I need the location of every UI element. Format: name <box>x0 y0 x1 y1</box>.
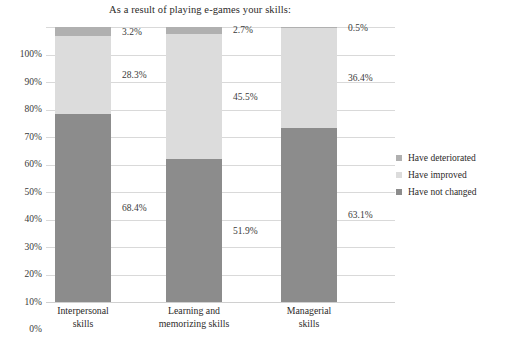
stacked-bar-chart: As a result of playing e-games your skil… <box>0 0 515 341</box>
x-tick-label-line: skills <box>28 318 138 331</box>
plot-area: 68.4%28.3%3.2%51.9%45.5%2.7%63.1%36.4%0.… <box>46 27 395 302</box>
bar-segment[interactable] <box>281 27 337 28</box>
data-label: 51.9% <box>233 226 258 236</box>
legend-label: Have improved <box>408 170 467 180</box>
x-tick-label-line: Learning and <box>139 305 249 318</box>
y-tick-label: 60% <box>0 159 42 169</box>
data-label: 28.3% <box>122 70 147 80</box>
bar-segment[interactable] <box>281 128 337 302</box>
x-axis: InterpersonalskillsLearning andmemorizin… <box>46 305 395 339</box>
x-tick-label-line: Managerial <box>254 305 364 318</box>
y-tick-label: 20% <box>0 269 42 279</box>
data-label: 2.7% <box>233 25 253 35</box>
legend-swatch-icon <box>396 155 402 161</box>
data-label: 68.4% <box>122 203 147 213</box>
x-tick-label: Managerialskills <box>254 305 364 330</box>
x-tick-label: Interpersonalskills <box>28 305 138 330</box>
legend-item[interactable]: Have deteriorated <box>396 150 512 165</box>
bar-group[interactable] <box>281 27 337 302</box>
y-tick-label: 40% <box>0 214 42 224</box>
bar-segment[interactable] <box>55 36 111 114</box>
data-label: 63.1% <box>348 210 373 220</box>
y-axis: 0%10%20%30%40%50%60%70%80%90%100% <box>0 27 42 302</box>
x-tick-label-line: Interpersonal <box>28 305 138 318</box>
y-tick-label: 90% <box>0 77 42 87</box>
legend-item[interactable]: Have not changed <box>396 184 512 199</box>
y-tick-label: 30% <box>0 242 42 252</box>
bar-segment[interactable] <box>166 27 222 34</box>
bar-segment[interactable] <box>55 27 111 36</box>
y-tick-label: 70% <box>0 132 42 142</box>
chart-legend: Have deterioratedHave improvedHave not c… <box>396 150 512 201</box>
data-label: 0.5% <box>348 23 368 33</box>
bar-segment[interactable] <box>166 159 222 302</box>
chart-title: As a result of playing e-games your skil… <box>0 4 400 15</box>
legend-label: Have not changed <box>408 187 477 197</box>
bar-segment[interactable] <box>55 114 111 302</box>
x-tick-label-line: skills <box>254 318 364 331</box>
legend-item[interactable]: Have improved <box>396 167 512 182</box>
data-label: 45.5% <box>233 92 258 102</box>
legend-swatch-icon <box>396 172 402 178</box>
x-tick-label: Learning andmemorizing skills <box>139 305 249 330</box>
x-tick-label-line: memorizing skills <box>139 318 249 331</box>
data-label: 36.4% <box>348 73 373 83</box>
y-tick-label: 100% <box>0 49 42 59</box>
bar-group[interactable] <box>55 27 111 302</box>
bar-segment[interactable] <box>166 34 222 159</box>
gridline <box>46 302 395 303</box>
y-tick-label: 80% <box>0 104 42 114</box>
bar-segment[interactable] <box>281 28 337 128</box>
data-label: 3.2% <box>122 27 142 37</box>
legend-swatch-icon <box>396 189 402 195</box>
legend-label: Have deteriorated <box>408 153 476 163</box>
y-tick-label: 50% <box>0 187 42 197</box>
bar-group[interactable] <box>166 27 222 302</box>
